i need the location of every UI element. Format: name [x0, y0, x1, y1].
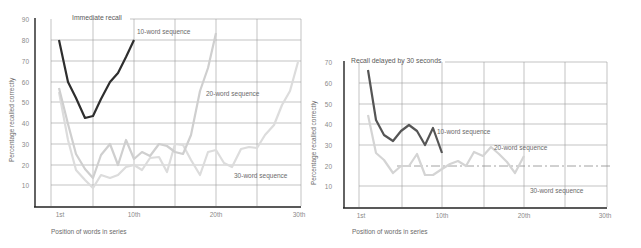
y-axis-label: Percentage recalled correctly [310, 100, 318, 185]
x-axis-label: Position of words in series [352, 228, 428, 235]
series-label-10-word: 10-word sequence [437, 128, 491, 136]
y-tick: 70 [325, 59, 333, 66]
x-tick-labels: 1st 10th 20th 30th [56, 211, 306, 218]
x-tick: 1st [56, 211, 65, 218]
figure: 10 20 30 40 50 60 70 80 90 1st 10th 20th… [0, 0, 641, 248]
y-axis-label: Percentage recalled correctly [8, 77, 16, 162]
x-tick: 30th [599, 212, 612, 219]
series-label-10-word: 10-word sequence [137, 28, 191, 36]
series-label-30-word: 30-word sequence [234, 172, 288, 180]
y-tick: 50 [325, 101, 333, 108]
x-tick: 1st [357, 212, 366, 219]
immediate-recall-chart: 10 20 30 40 50 60 70 80 90 1st 10th 20th… [8, 14, 306, 235]
x-tick: 10th [128, 211, 141, 218]
y-tick: 10 [325, 183, 333, 190]
y-tick: 40 [22, 120, 30, 127]
y-tick: 50 [22, 99, 30, 106]
series-label-30-word: 30-word sequence [530, 187, 584, 195]
series-label-20-word: 20-word sequence [494, 144, 548, 152]
chart-title: Recall delayed by 30 seconds [351, 57, 442, 65]
series-20-word [59, 33, 216, 178]
y-tick-labels: 10 20 30 40 50 60 70 80 90 [22, 16, 30, 189]
y-tick: 90 [22, 16, 30, 23]
y-tick: 40 [325, 121, 333, 128]
y-tick: 20 [22, 162, 30, 169]
x-tick: 20th [518, 212, 531, 219]
chart-title: Immediate recall [72, 14, 122, 21]
x-tick: 10th [436, 212, 449, 219]
x-tick: 20th [210, 211, 223, 218]
y-tick: 80 [22, 37, 30, 44]
series-30-word [59, 62, 298, 188]
y-tick: 20 [325, 163, 333, 170]
y-tick-labels: 10 20 30 40 50 60 70 [325, 59, 333, 190]
x-tick-labels: 1st 10th 20th 30th [357, 212, 612, 219]
series-10-word [59, 40, 134, 118]
y-tick: 30 [22, 141, 30, 148]
series-label-20-word: 20-word sequence [206, 90, 260, 98]
y-tick: 70 [22, 58, 30, 65]
y-tick: 60 [22, 79, 30, 86]
y-tick: 60 [325, 80, 333, 87]
x-tick: 30th [293, 211, 306, 218]
x-axis-label: Position of words in series [51, 228, 127, 235]
y-tick: 30 [325, 142, 333, 149]
series-10-word [368, 70, 442, 153]
delayed-recall-chart: 10 20 30 40 50 60 70 1st 10th 20th 30th … [310, 57, 612, 235]
y-tick: 10 [22, 182, 30, 189]
